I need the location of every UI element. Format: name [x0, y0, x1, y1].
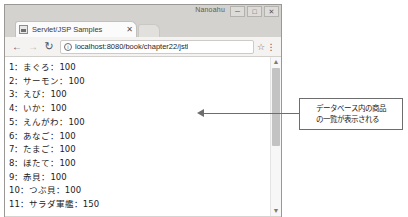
close-button[interactable]: ✕ [264, 6, 279, 17]
page-viewport: 1：まぐろ：100 2：サーモン：100 3：えび：100 4：いか：100 5… [5, 57, 281, 216]
annotation-line-1: データベース内の商品 [316, 103, 386, 114]
annotation-text: データベース内の商品 の一覧が表示される [312, 103, 390, 125]
window-controls: ─ □ ✕ [230, 6, 279, 17]
scroll-up-icon[interactable]: ▲ [271, 57, 281, 67]
list-item: 7：たまご：100 [9, 143, 268, 157]
callout-arrow-icon [197, 109, 204, 117]
menu-icon[interactable]: ⋮ [265, 42, 277, 52]
tab-strip: Servlet/JSP Samples ✕ [5, 19, 281, 37]
list-item: 10：つぶ貝：100 [9, 184, 268, 198]
tab-close-icon[interactable]: ✕ [124, 26, 133, 34]
list-item: 3：えび：100 [9, 88, 268, 102]
annotation-line-2: の一覧が表示される [316, 114, 386, 125]
new-tab-button[interactable] [138, 24, 160, 37]
list-item: 6：あなご：100 [9, 130, 268, 144]
scroll-down-icon[interactable]: ▼ [271, 206, 281, 216]
forward-icon[interactable]: → [25, 41, 41, 52]
address-bar[interactable]: i localhost:8080/book/chapter22/jstl [60, 40, 254, 54]
reload-icon[interactable]: ↻ [41, 40, 57, 53]
vertical-scrollbar[interactable]: ▲ ▼ [270, 57, 281, 216]
callout-leader-line [203, 113, 299, 114]
tab-label: Servlet/JSP Samples [32, 25, 124, 34]
list-item: 9：赤貝：100 [9, 171, 268, 185]
list-item: 1：まぐろ：100 [9, 61, 268, 75]
window-title: Nanoahu [195, 6, 225, 13]
window-title-bar[interactable]: Nanoahu ─ □ ✕ [5, 5, 281, 19]
page-favicon-icon [19, 25, 28, 34]
list-item: 11：サラダ軍艦：150 [9, 198, 268, 212]
product-list: 1：まぐろ：100 2：サーモン：100 3：えび：100 4：いか：100 5… [9, 61, 268, 212]
tab-servlet-jsp-samples[interactable]: Servlet/JSP Samples ✕ [15, 21, 137, 37]
minimize-button[interactable]: ─ [230, 6, 245, 17]
list-item: 8：ほたて：100 [9, 157, 268, 171]
site-info-icon[interactable]: i [64, 43, 72, 51]
back-icon[interactable]: ← [9, 41, 25, 52]
browser-window: Nanoahu ─ □ ✕ Servlet/JSP Samples ✕ ← → … [4, 4, 282, 217]
browser-toolbar: ← → ↻ i localhost:8080/book/chapter22/js… [5, 37, 281, 57]
list-item: 5：えんがわ：100 [9, 116, 268, 130]
maximize-button[interactable]: □ [247, 6, 262, 17]
url-input[interactable]: localhost:8080/book/chapter22/jstl [75, 42, 188, 51]
scrollbar-thumb[interactable] [272, 68, 280, 146]
annotation-callout: データベース内の商品 の一覧が表示される [299, 98, 403, 130]
list-item: 2：サーモン：100 [9, 75, 268, 89]
bookmark-star-icon[interactable]: ☆ [257, 42, 265, 52]
